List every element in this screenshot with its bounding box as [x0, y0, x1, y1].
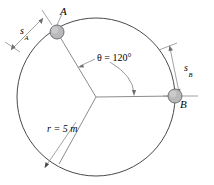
- particle-b-highlight: [170, 91, 177, 98]
- mechanics-figure: [0, 0, 214, 185]
- label-point-b: B: [180, 99, 187, 110]
- theta-leader: [80, 59, 95, 66]
- sA-extension-tick-top: [42, 10, 52, 25]
- label-radius: r = 5 m: [47, 124, 77, 134]
- angle-arc: [110, 62, 134, 93]
- sA-arrowhead-upper: [39, 18, 44, 24]
- label-arc-length-a: sA: [20, 26, 28, 39]
- label-point-a: A: [60, 6, 67, 17]
- label-angle: θ = 120°: [97, 53, 131, 63]
- spoke-to-a: [57, 32, 96, 97]
- label-arc-length-b-subscript: B: [188, 71, 192, 78]
- angle-arc-arrowhead: [132, 90, 136, 96]
- sB-extension-tick-top: [159, 43, 177, 50]
- label-arc-length-b: sB: [184, 63, 192, 76]
- label-arc-length-a-subscript: A: [24, 34, 28, 41]
- sA-arrowhead-lower: [11, 44, 16, 50]
- particle-a-highlight: [52, 27, 59, 34]
- theta-leader-arrowhead: [78, 65, 85, 68]
